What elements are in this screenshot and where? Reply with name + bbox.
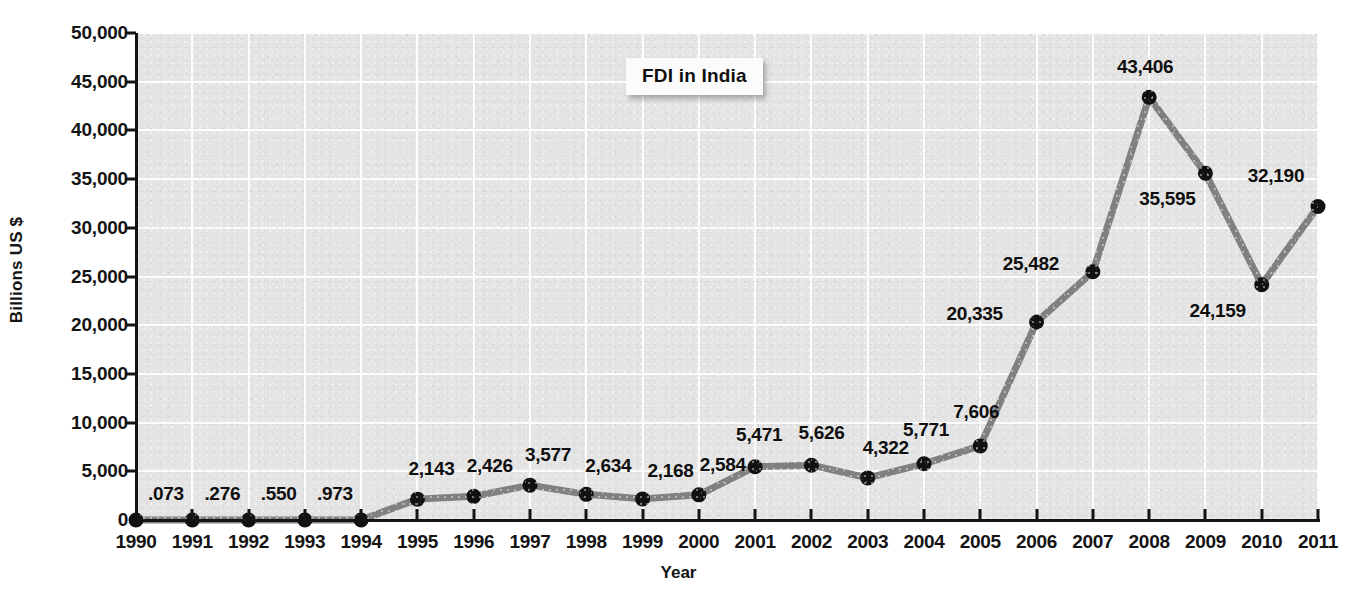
data-point-label: 35,595 <box>1139 188 1195 210</box>
data-point-label: 24,159 <box>1190 300 1246 322</box>
data-point-marker <box>579 487 594 502</box>
x-axis-tick-mark <box>979 509 982 520</box>
data-point-label: .073 <box>148 483 184 505</box>
y-axis-tick-label: 20,000 <box>28 314 128 336</box>
x-axis-tick-label: 2009 <box>1185 531 1226 553</box>
x-axis-tick-label: 1998 <box>566 531 607 553</box>
x-axis-tick-label: 2003 <box>847 531 888 553</box>
x-axis-tick-mark <box>810 509 813 520</box>
plot-area <box>136 33 1318 520</box>
y-axis-tick-label: 35,000 <box>28 168 128 190</box>
data-point-label: 20,335 <box>946 303 1002 325</box>
data-point-label: 2,168 <box>648 460 694 482</box>
fdi-line-series <box>136 33 1318 520</box>
x-axis-tick-label: 1990 <box>115 531 156 553</box>
y-axis-tick-label: 40,000 <box>28 119 128 141</box>
y-axis-tick-label: 15,000 <box>28 363 128 385</box>
x-axis-tick-mark <box>247 509 250 520</box>
x-axis-title: Year <box>0 563 1357 583</box>
data-point-marker <box>523 478 538 493</box>
data-point-label: 2,634 <box>585 455 631 477</box>
data-point-marker <box>917 456 932 471</box>
data-point-label: 2,584 <box>700 454 746 476</box>
x-axis-tick-mark <box>472 509 475 520</box>
y-axis-tick-label: 5,000 <box>28 460 128 482</box>
x-axis-tick-label: 1996 <box>453 531 494 553</box>
x-axis-tick-mark <box>585 509 588 520</box>
x-axis-tick-mark <box>191 509 194 520</box>
x-axis-tick-label: 1994 <box>341 531 382 553</box>
data-point-marker <box>635 491 650 506</box>
data-point-label: 7,606 <box>953 401 999 423</box>
data-point-marker <box>748 459 763 474</box>
data-point-marker <box>1198 166 1213 181</box>
data-point-label: 3,577 <box>525 444 571 466</box>
x-axis-title-text: Year <box>661 563 697 582</box>
y-axis-tick-label: 10,000 <box>28 412 128 434</box>
x-axis-tick-mark <box>866 509 869 520</box>
x-axis-tick-label: 2007 <box>1072 531 1113 553</box>
data-point-marker <box>1142 90 1157 105</box>
x-axis-tick-label: 2005 <box>960 531 1001 553</box>
data-point-marker <box>1085 264 1100 279</box>
x-axis-spine <box>135 519 1320 522</box>
x-axis-tick-mark <box>1204 509 1207 520</box>
data-point-label: .550 <box>261 483 297 505</box>
x-axis-tick-label: 2006 <box>1016 531 1057 553</box>
x-axis-tick-mark <box>360 509 363 520</box>
x-axis-tick-label: 1991 <box>172 531 213 553</box>
data-point-label: 4,322 <box>863 437 909 459</box>
data-point-label: 5,626 <box>798 422 844 444</box>
y-axis-tick-label: 0 <box>28 509 128 531</box>
x-axis-tick-label: 2000 <box>678 531 719 553</box>
x-axis-tick-mark <box>754 509 757 520</box>
x-axis-tick-mark <box>697 509 700 520</box>
data-point-label: 5,771 <box>903 419 949 441</box>
data-point-label: 25,482 <box>1003 253 1059 275</box>
x-axis-tick-mark <box>303 509 306 520</box>
y-axis-tick-label: 50,000 <box>28 22 128 44</box>
x-axis-tick-label: 1995 <box>397 531 438 553</box>
x-axis-tick-mark <box>1260 509 1263 520</box>
x-axis-tick-mark <box>416 509 419 520</box>
x-axis-tick-label: 1999 <box>622 531 663 553</box>
y-axis-spine <box>135 33 138 522</box>
x-axis-tick-label: 1992 <box>228 531 269 553</box>
x-axis-tick-mark <box>1091 509 1094 520</box>
data-point-label: 2,426 <box>467 455 513 477</box>
y-axis-tick-label: 30,000 <box>28 217 128 239</box>
chart-figure: Billions US $ 05,00010,00015,00020,00025… <box>0 0 1357 607</box>
data-point-marker <box>973 438 988 453</box>
data-point-marker <box>860 470 875 485</box>
data-point-label: 5,471 <box>736 424 782 446</box>
data-point-marker <box>1029 314 1044 329</box>
x-axis-tick-mark <box>641 509 644 520</box>
x-axis-tick-mark <box>923 509 926 520</box>
x-axis-tick-label: 2010 <box>1241 531 1282 553</box>
x-axis-tick-label: 2001 <box>735 531 776 553</box>
x-axis-tick-mark <box>529 509 532 520</box>
x-axis-tick-label: 1993 <box>284 531 325 553</box>
data-point-label: .276 <box>204 483 240 505</box>
y-axis-tick-label: 25,000 <box>28 266 128 288</box>
chart-title-text: FDI in India <box>642 65 747 86</box>
data-point-label: .973 <box>317 483 353 505</box>
x-axis-tick-mark <box>1317 509 1320 520</box>
x-axis-tick-label: 1997 <box>509 531 550 553</box>
chart-title-box: FDI in India <box>626 58 763 95</box>
x-axis-tick-label: 2008 <box>1129 531 1170 553</box>
data-point-label: 2,143 <box>408 458 454 480</box>
y-axis-tick-label: 45,000 <box>28 71 128 93</box>
x-axis-tick-label: 2002 <box>791 531 832 553</box>
data-point-marker <box>1254 277 1269 292</box>
data-point-marker <box>691 487 706 502</box>
data-point-marker <box>466 489 481 504</box>
data-point-label: 43,406 <box>1117 56 1173 78</box>
data-point-marker <box>410 492 425 507</box>
y-axis-tick-labels: 05,00010,00015,00020,00025,00030,00035,0… <box>22 0 128 607</box>
x-axis-tick-mark <box>1035 509 1038 520</box>
data-point-label: 32,190 <box>1248 165 1304 187</box>
x-axis-tick-label: 2004 <box>903 531 944 553</box>
x-axis-tick-label: 2011 <box>1298 531 1338 553</box>
x-axis-tick-mark <box>1148 509 1151 520</box>
